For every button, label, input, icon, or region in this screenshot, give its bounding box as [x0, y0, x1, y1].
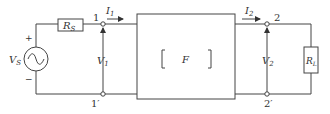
terminal-2-prime: [265, 92, 269, 96]
v2-label: V2: [262, 55, 274, 68]
port1-top-label: 1: [93, 12, 99, 23]
wire-source-bottom: [36, 71, 137, 94]
plus-sign: +: [25, 33, 33, 43]
i1-label: I1: [105, 5, 114, 18]
i2-label: I2: [244, 5, 254, 18]
wire-port2-top: [235, 24, 311, 47]
port2-bottom-label: 2′: [264, 98, 273, 109]
vs-label: VS: [9, 54, 21, 67]
port1-bottom-label: 1′: [91, 98, 100, 109]
circuit-svg: RS RL VS + − 1 1′ 2 2′ I1 I2 V1 V2 F: [0, 0, 330, 114]
minus-sign: −: [25, 74, 33, 84]
two-port-circuit-diagram: RS RL VS + − 1 1′ 2 2′ I1 I2 V1 V2 F: [0, 0, 330, 114]
wire-port2-bottom: [235, 73, 311, 94]
terminal-1-prime: [101, 92, 105, 96]
wire-source-top: [36, 24, 58, 47]
port2-top-label: 2: [274, 12, 280, 23]
terminal-2: [265, 22, 269, 26]
terminal-1: [101, 22, 105, 26]
network-label: F: [181, 54, 190, 65]
